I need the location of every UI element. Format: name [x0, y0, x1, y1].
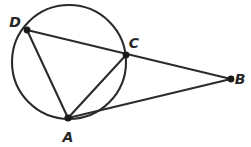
- vertex-label-b: B: [235, 71, 246, 87]
- segment-ac: [68, 55, 126, 118]
- point-marker-d: [24, 27, 31, 34]
- point-marker-c: [123, 52, 130, 59]
- segment-da: [27, 30, 68, 118]
- circle-outline: [12, 5, 126, 119]
- segment-ab: [68, 79, 231, 118]
- geometry-canvas: D C B A: [0, 0, 251, 147]
- vertex-label-c: C: [129, 35, 140, 51]
- point-marker-b: [228, 76, 235, 83]
- point-marker-a: [64, 114, 71, 121]
- vertex-label-a: A: [62, 129, 74, 145]
- vertex-label-d: D: [9, 14, 21, 30]
- geometry-figure: D C B A: [0, 0, 251, 147]
